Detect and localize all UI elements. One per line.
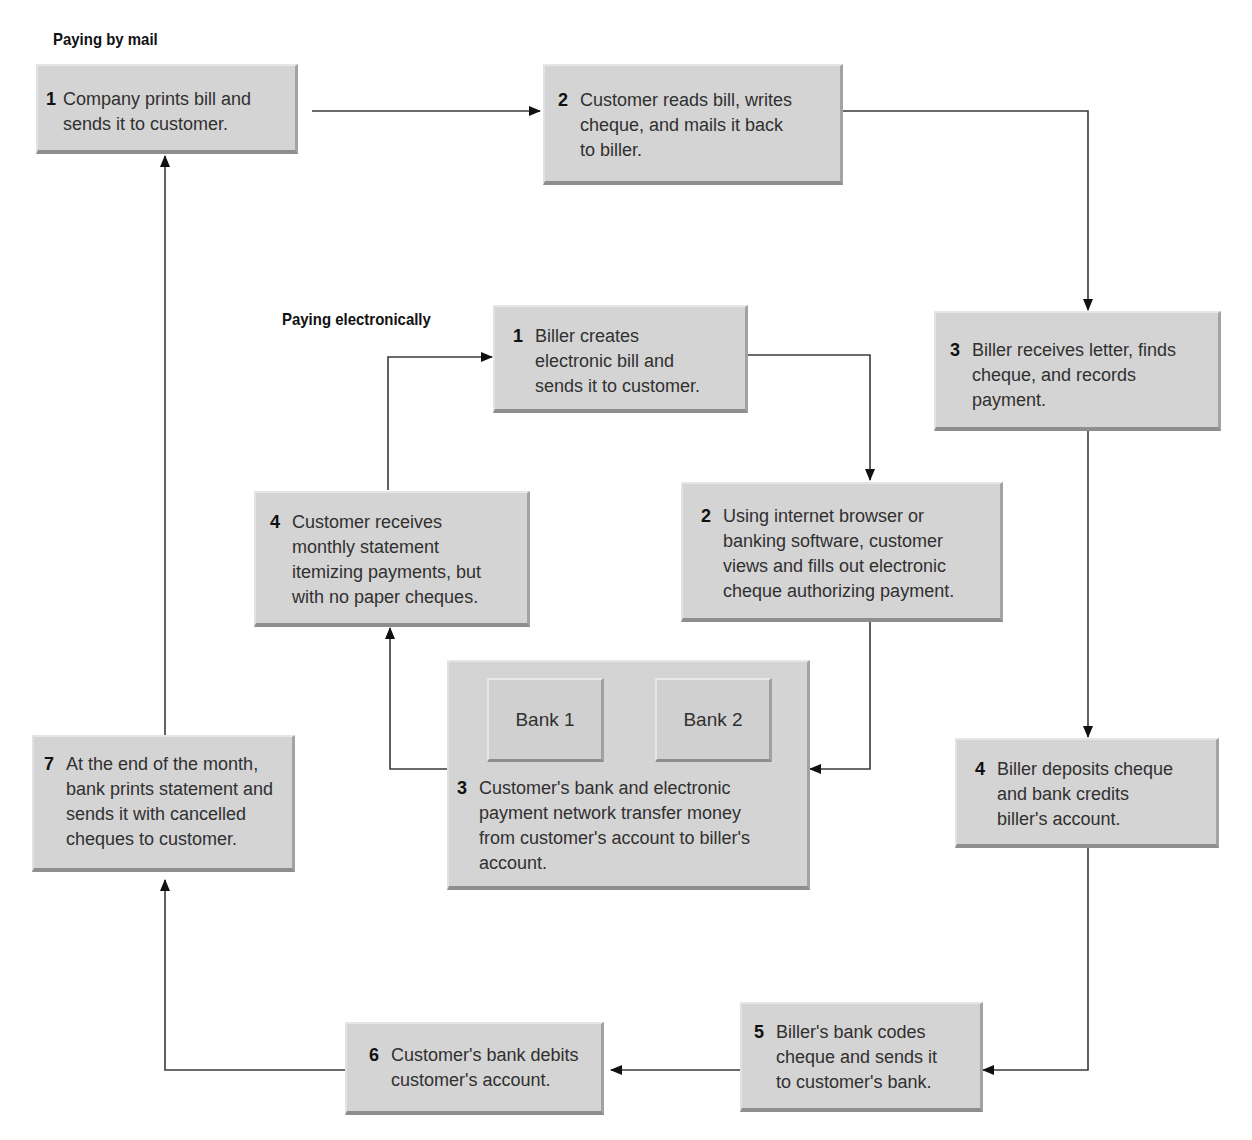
bank-2-label: Bank 2	[683, 707, 742, 732]
step-number: 3	[950, 338, 972, 413]
arrow-elec-1-to-2	[747, 355, 870, 480]
step-number: 2	[701, 504, 723, 604]
step-number: 4	[975, 757, 997, 832]
step-text: Customer's bank and electronic payment n…	[479, 776, 750, 876]
electronic-step-3-box: Bank 1 Bank 2 3 Customer's bank and elec…	[447, 660, 810, 890]
step-text: Biller receives letter, finds cheque, an…	[972, 338, 1176, 413]
step-number: 7	[44, 752, 66, 852]
electronic-step-1-box: 1 Biller creates electronic bill and sen…	[493, 305, 748, 413]
step-text: Biller deposits cheque and bank credits …	[997, 757, 1173, 832]
mail-step-1-box: 1 Company prints bill and sends it to cu…	[36, 64, 298, 154]
step-text: Customer receives monthly statement item…	[292, 510, 481, 610]
step-number: 3	[457, 776, 479, 876]
mail-step-5-box: 5 Biller's bank codes cheque and sends i…	[740, 1002, 983, 1112]
step-number: 5	[754, 1020, 776, 1095]
paying-by-mail-title: Paying by mail	[53, 30, 158, 50]
electronic-step-2-box: 2 Using internet browser or banking soft…	[681, 482, 1003, 622]
paying-electronically-title: Paying electronically	[282, 310, 431, 330]
mail-step-6-box: 6 Customer's bank debits customer's acco…	[345, 1022, 604, 1115]
step-text: Customer's bank debits customer's accoun…	[391, 1043, 579, 1093]
step-text: Using internet browser or banking softwa…	[723, 504, 954, 604]
mail-step-3-box: 3 Biller receives letter, finds cheque, …	[934, 311, 1221, 431]
step-text: Biller creates electronic bill and sends…	[535, 324, 700, 399]
step-text: Customer reads bill, writes cheque, and …	[580, 88, 792, 163]
step-number: 1	[46, 87, 63, 137]
arrow-mail-2-to-3	[842, 111, 1088, 310]
bank-1-box: Bank 1	[487, 678, 604, 762]
step-number: 6	[369, 1043, 391, 1093]
step-number: 2	[558, 88, 580, 163]
bank-2-box: Bank 2	[655, 678, 772, 762]
arrow-mail-6-to-7	[165, 880, 345, 1070]
step-number: 4	[270, 510, 292, 610]
step-text: Company prints bill and sends it to cust…	[63, 87, 251, 137]
mail-step-4-box: 4 Biller deposits cheque and bank credit…	[955, 738, 1219, 848]
step-number: 1	[513, 324, 535, 399]
bank-1-label: Bank 1	[515, 707, 574, 732]
arrow-mail-4-to-5	[983, 848, 1088, 1070]
arrow-elec-2-to-3	[810, 622, 870, 769]
arrow-elec-4-to-1	[388, 357, 492, 490]
electronic-step-4-box: 4 Customer receives monthly statement it…	[254, 491, 530, 627]
step-text: At the end of the month, bank prints sta…	[66, 752, 273, 852]
mail-step-2-box: 2 Customer reads bill, writes cheque, an…	[543, 64, 843, 185]
arrow-elec-3-to-4	[390, 628, 448, 769]
step-text: Biller's bank codes cheque and sends it …	[776, 1020, 937, 1095]
mail-step-7-box: 7 At the end of the month, bank prints s…	[32, 735, 295, 872]
